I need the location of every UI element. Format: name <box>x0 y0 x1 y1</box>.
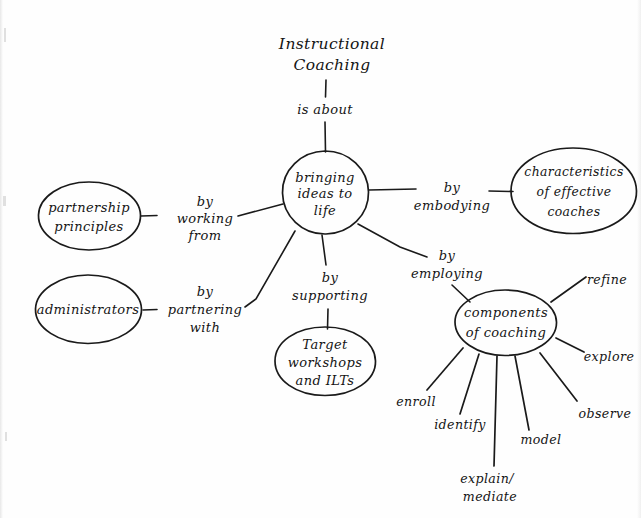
node-target-line-1: Target <box>302 337 348 352</box>
spoke-label-model: model <box>520 432 561 447</box>
node-characteristics-line-1: characteristics <box>524 164 623 179</box>
edge-center-to-label-characteristics <box>369 189 416 190</box>
link-label-characteristics-line-1: by <box>444 180 461 195</box>
edge-administrators-to-label <box>143 310 157 311</box>
node-target-line-3: and ILTs <box>296 373 355 388</box>
edge-partnership-to-label <box>141 216 157 217</box>
edge-label-to-components <box>452 285 470 302</box>
edge-title-to-isabout <box>326 80 327 97</box>
concept-map-canvas: Instructional Coaching is about bringing… <box>0 0 641 518</box>
spoke-line-explore <box>556 338 584 352</box>
node-characteristics-line-3: coaches <box>547 204 600 219</box>
node-partnership-principles[interactable]: partnership principles <box>38 182 140 250</box>
spoke-label-explain: explain/ <box>460 471 515 486</box>
link-label-components-line-2: employing <box>411 266 483 281</box>
link-label-is-about: is about <box>297 102 353 117</box>
spoke-label-refine: refine <box>587 272 627 287</box>
node-center-line-3: life <box>314 203 336 218</box>
edge-label-to-target <box>328 309 329 329</box>
link-label-administrators-line-2: partnering <box>168 302 243 317</box>
spoke-line-explain-mediate <box>494 356 497 466</box>
node-components-line-1: components <box>464 305 548 320</box>
node-administrators[interactable]: administrators <box>35 275 141 344</box>
node-shape-partnership <box>38 182 140 250</box>
link-label-partnership-line-1: by <box>197 194 214 209</box>
branch-components: by employing components of coaching <box>358 224 557 356</box>
spoke-label-enroll: enroll <box>396 394 436 409</box>
branch-partnership: by working from partnership principles <box>38 182 283 250</box>
spoke-line-model <box>515 356 529 430</box>
map-title-line-1: Instructional <box>278 35 385 53</box>
node-center-line-1: bringing <box>295 170 354 185</box>
edge-label-to-center-administrators <box>245 231 295 307</box>
node-center-line-2: ideas to <box>298 186 353 201</box>
node-target-workshops-and-ilts[interactable]: Target workshops and ILTs <box>275 327 376 396</box>
link-label-target-line-2: supporting <box>292 288 368 303</box>
branch-characteristics: by embodying characteristics of effectiv… <box>369 148 637 234</box>
spoke-line-identify <box>460 354 479 414</box>
spoke-label-mediate: mediate <box>463 489 517 504</box>
edge-label-to-center-partnership <box>238 204 283 216</box>
node-target-line-2: workshops <box>288 355 363 370</box>
map-title-line-2: Coaching <box>293 56 370 74</box>
branch-target-workshops: by supporting Target workshops and ILTs <box>275 235 376 396</box>
edge-label-to-characteristics <box>489 191 513 192</box>
edge-center-to-label-components <box>358 224 427 257</box>
concept-map-svg: Instructional Coaching is about bringing… <box>0 0 641 518</box>
spoke-label-observe: observe <box>579 406 632 421</box>
node-components-line-2: of coaching <box>466 325 547 340</box>
link-label-administrators-line-3: with <box>190 320 220 335</box>
node-characteristics-line-2: of effective <box>537 184 612 199</box>
spoke-line-enroll <box>427 348 463 390</box>
node-characteristics-of-effective-coaches[interactable]: characteristics of effective coaches <box>511 148 637 234</box>
spoke-line-refine <box>551 277 586 302</box>
link-label-administrators-line-1: by <box>197 284 214 299</box>
edge-center-to-label-target <box>322 235 326 265</box>
node-partnership-line-1: partnership <box>48 200 130 215</box>
link-label-partnership-line-2: working <box>177 211 234 226</box>
node-administrators-line-1: administrators <box>37 302 139 317</box>
edge-isabout-to-center <box>325 122 326 152</box>
link-label-target-line-1: by <box>322 270 339 285</box>
node-components-of-coaching[interactable]: components of coaching <box>455 290 557 356</box>
node-bringing-ideas-to-life[interactable]: bringing ideas to life <box>282 151 368 234</box>
spoke-line-observe <box>540 353 577 401</box>
node-shape-components <box>455 290 557 356</box>
spoke-label-explore: explore <box>584 349 635 364</box>
spoke-label-identify: identify <box>434 417 486 432</box>
map-title: Instructional Coaching <box>278 35 385 74</box>
link-label-partnership-line-3: from <box>188 228 222 243</box>
node-partnership-line-2: principles <box>54 219 123 234</box>
link-label-characteristics-line-2: embodying <box>414 198 490 213</box>
link-label-components-line-1: by <box>439 248 456 263</box>
